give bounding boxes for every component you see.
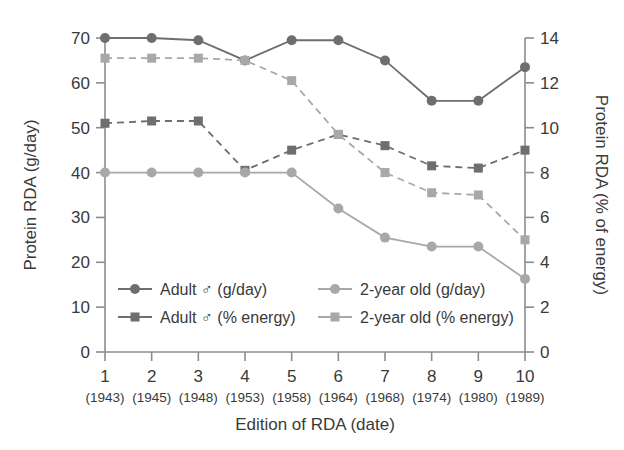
data-point-marker [427, 161, 436, 170]
x-axis-date-label: (1980) [459, 390, 498, 405]
left-axis-tick-label: 10 [71, 298, 90, 317]
x-axis-tick-label: 10 [516, 367, 535, 386]
x-axis-tick-label: 5 [287, 367, 296, 386]
series-line [105, 173, 525, 279]
chart-canvas: 010203040506070 02468101214 1(1943)2(194… [0, 0, 624, 450]
data-point-marker [521, 146, 530, 155]
legend-label: Adult ♂ (% energy) [160, 309, 296, 326]
data-point-marker [473, 242, 483, 252]
data-point-marker [427, 96, 437, 106]
x-axis-tick-label: 8 [427, 367, 436, 386]
left-axis-tick-label: 60 [71, 74, 90, 93]
data-point-marker [147, 116, 156, 125]
left-axis-tick-label: 0 [81, 343, 90, 362]
data-point-marker [287, 168, 297, 178]
right-axis-tick-label: 0 [540, 343, 549, 362]
series-line [105, 121, 525, 170]
data-point-marker [474, 164, 483, 173]
legend-swatch-marker [331, 313, 340, 322]
x-axis-date-label: (1953) [225, 390, 264, 405]
data-point-marker [521, 235, 530, 244]
data-point-marker [287, 146, 296, 155]
data-point-marker [241, 56, 250, 65]
data-point-marker [520, 274, 530, 284]
data-point-marker [334, 130, 343, 139]
data-point-marker [240, 168, 250, 178]
x-axis-date-label: (1958) [272, 390, 311, 405]
chart-legend: Adult ♂ (g/day)2-year old (g/day)Adult ♂… [118, 281, 514, 326]
x-axis-date-label: (1968) [365, 390, 404, 405]
data-point-marker [381, 168, 390, 177]
data-point-marker [101, 119, 110, 128]
data-point-marker [194, 116, 203, 125]
legend-item: Adult ♂ (% energy) [118, 309, 296, 326]
right-axis-tick-label: 6 [540, 208, 549, 227]
legend-item: 2-year old (% energy) [318, 309, 514, 326]
data-point-marker [333, 35, 343, 45]
series-3 [100, 168, 530, 284]
legend-swatch-marker [130, 284, 140, 294]
x-axis-tick-label: 7 [380, 367, 389, 386]
series-line [105, 58, 525, 240]
right-axis-tick-label: 8 [540, 164, 549, 183]
x-axis-date-label: (1945) [132, 390, 171, 405]
left-axis-tick-label: 30 [71, 208, 90, 227]
left-axis-tick-label: 20 [71, 253, 90, 272]
data-point-marker [427, 242, 437, 252]
data-point-marker [101, 54, 110, 63]
right-axis-tick-label: 14 [540, 29, 559, 48]
x-axis-date-label: (1943) [85, 390, 124, 405]
right-axis-tick-label: 2 [540, 298, 549, 317]
data-point-marker [147, 33, 157, 43]
x-axis-tick-label: 4 [240, 367, 249, 386]
x-axis-date-label: (1948) [179, 390, 218, 405]
series-1 [100, 33, 530, 106]
legend-label: Adult ♂ (g/day) [160, 281, 267, 298]
x-axis-tick-label: 6 [334, 367, 343, 386]
data-point-marker [381, 141, 390, 150]
left-axis-tick-label: 70 [71, 29, 90, 48]
data-point-marker [193, 35, 203, 45]
x-axis-date-label: (1974) [412, 390, 451, 405]
left-axis: 010203040506070 [71, 29, 105, 362]
protein-rda-chart-figure: 010203040506070 02468101214 1(1943)2(194… [0, 0, 624, 450]
data-point-marker [287, 76, 296, 85]
x-axis-date-label: (1989) [505, 390, 544, 405]
data-point-marker [193, 168, 203, 178]
data-point-marker [380, 233, 390, 243]
data-point-marker [287, 35, 297, 45]
right-axis-title: Protein RDA (% of energy) [592, 95, 611, 295]
data-point-marker [427, 188, 436, 197]
data-point-marker [474, 191, 483, 200]
legend-item: 2-year old (g/day) [318, 281, 485, 298]
legend-label: 2-year old (% energy) [360, 309, 514, 326]
legend-item: Adult ♂ (g/day) [118, 281, 267, 298]
right-axis-tick-label: 12 [540, 74, 559, 93]
left-axis-title: Protein RDA (g/day) [21, 119, 40, 270]
data-point-marker [380, 55, 390, 65]
series-2 [101, 116, 530, 174]
series-line [105, 38, 525, 101]
data-series-group [100, 33, 530, 284]
x-axis-tick-label: 3 [194, 367, 203, 386]
right-axis-tick-label: 10 [540, 119, 559, 138]
right-axis-tick-label: 4 [540, 253, 549, 272]
x-axis-tick-label: 2 [147, 367, 156, 386]
x-axis-date-label: (1964) [319, 390, 358, 405]
right-axis: 02468101214 [525, 29, 559, 362]
legend-swatch-marker [330, 284, 340, 294]
data-point-marker [147, 54, 156, 63]
legend-swatch-marker [131, 313, 140, 322]
left-axis-tick-label: 50 [71, 119, 90, 138]
data-point-marker [473, 96, 483, 106]
data-point-marker [147, 168, 157, 178]
data-point-marker [194, 54, 203, 63]
x-axis-tick-label: 1 [100, 367, 109, 386]
data-point-marker [333, 203, 343, 213]
data-point-marker [100, 33, 110, 43]
series-4 [101, 54, 530, 245]
x-axis-tick-label: 9 [474, 367, 483, 386]
x-axis-title: Edition of RDA (date) [235, 415, 395, 434]
legend-label: 2-year old (g/day) [360, 281, 485, 298]
left-axis-tick-label: 40 [71, 164, 90, 183]
